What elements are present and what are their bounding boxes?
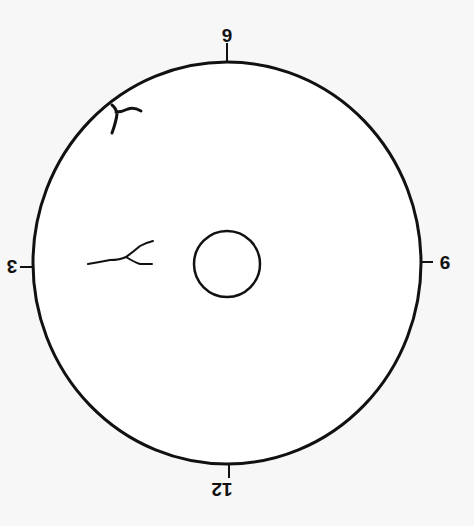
clock-diagram: 6 12 3 9: [0, 0, 474, 526]
label-right: 9: [440, 252, 451, 273]
label-top: 6: [222, 25, 233, 46]
label-bottom: 12: [211, 479, 232, 500]
label-left: 3: [7, 256, 18, 277]
